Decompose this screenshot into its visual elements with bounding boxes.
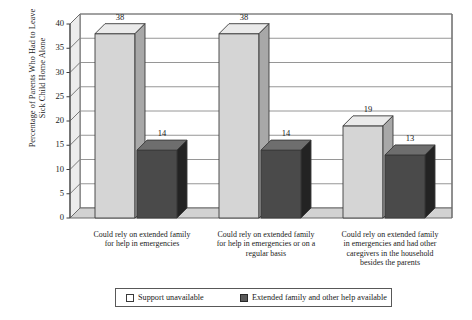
y-axis-tick-label: 5: [42, 189, 64, 198]
y-axis-tick-label: 15: [42, 140, 64, 149]
x-axis-category-label-line: Could rely on extended family: [72, 230, 212, 239]
chart-canvas: [0, 0, 472, 320]
legend-label-extended-family-help: Extended family and other help available: [252, 292, 387, 303]
bar-chart: Percentage of Parents Who Had to Leave S…: [0, 0, 472, 320]
x-axis-category-label-line: besides the parents: [320, 258, 460, 267]
y-axis-tick-label: 0: [42, 213, 64, 222]
x-axis-category-label: Could rely on extended familyin emergenc…: [320, 230, 460, 267]
bar-value-label: 13: [395, 134, 425, 143]
legend-label-support-unavailable: Support unavailable: [138, 292, 204, 303]
x-axis-category-label-line: for help in emergencies or on a: [196, 239, 336, 248]
x-axis-category-label: Could rely on extended familyfor help in…: [72, 230, 212, 249]
y-axis-tick-label: 30: [42, 68, 64, 77]
y-axis-tick-label: 35: [42, 43, 64, 52]
legend-swatch-extended-family-help: [240, 294, 248, 302]
legend-item-extended-family-help: Extended family and other help available: [240, 292, 387, 303]
x-axis-category-label-line: for help in emergencies: [72, 239, 212, 248]
x-axis-category-label-line: in emergencies and had other: [320, 239, 460, 248]
x-axis-category-label: Could rely on extended familyfor help in…: [196, 230, 336, 258]
bar-value-label: 19: [353, 105, 383, 114]
y-axis-tick-label: 40: [42, 19, 64, 28]
y-axis-tick-label: 20: [42, 116, 64, 125]
bar-value-label: 38: [229, 13, 259, 22]
x-axis-category-label-line: Could rely on extended family: [320, 230, 460, 239]
x-axis-category-label-line: caregivers in the household: [320, 249, 460, 258]
x-axis-category-label-line: regular basis: [196, 249, 336, 258]
bar-value-label: 38: [105, 13, 135, 22]
legend-item-support-unavailable: Support unavailable: [126, 292, 204, 303]
bar-value-label: 14: [147, 129, 177, 138]
x-axis-category-label-line: Could rely on extended family: [196, 230, 336, 239]
legend: Support unavailable Extended family and …: [115, 288, 392, 307]
bar-value-label: 14: [271, 129, 301, 138]
legend-swatch-support-unavailable: [126, 294, 134, 302]
y-axis-tick-label: 25: [42, 92, 64, 101]
y-axis-tick-label: 10: [42, 165, 64, 174]
